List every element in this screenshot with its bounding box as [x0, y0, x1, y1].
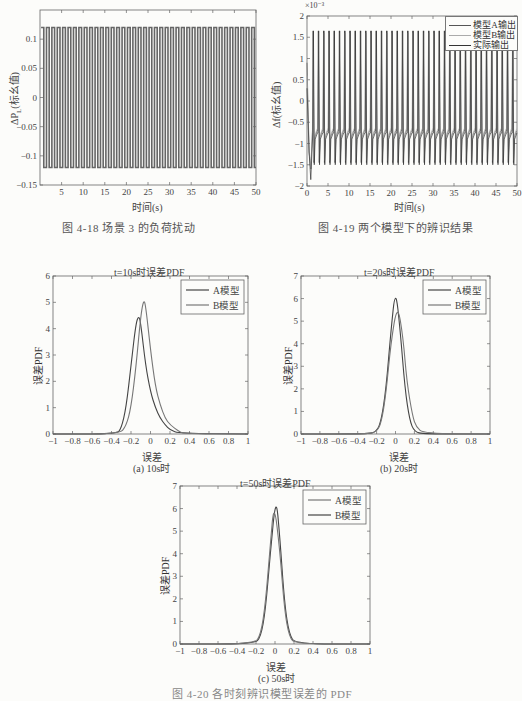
x-tick-label: 5 [59, 187, 64, 197]
fig-4-18-caption: 图 4-18 场景 3 的负荷扰动 [62, 219, 195, 235]
y-tick-label: 7 [173, 481, 178, 491]
y-tick-label: 2 [173, 594, 178, 604]
y-tick-label: 4 [46, 324, 51, 334]
output-series-1 [307, 33, 517, 169]
x-tick-label: 20 [387, 188, 397, 198]
legend-line-b [449, 35, 471, 36]
x-tick-label: 35 [450, 188, 460, 198]
fig-4-19-xlabel: 时间(s) [394, 199, 425, 214]
y-tick-label: −0.15 [16, 180, 37, 190]
x-tick-label: 20 [122, 187, 132, 197]
y-tick-label: 6 [173, 504, 178, 514]
fig-4-20-caption: 图 4-20 各时刻辨识模型误差的 PDF [172, 685, 352, 701]
x-tick-label: 5 [326, 188, 331, 198]
x-tick-label: 30 [165, 187, 175, 197]
x-tick-label: 40 [471, 188, 481, 198]
x-tick-label: −0.4 [103, 436, 120, 446]
y-tick-label: 4 [173, 549, 178, 559]
panel-a-ylabel: 误差PDF [30, 347, 45, 385]
ylabel-sub: L [15, 109, 23, 113]
output-series-0 [307, 31, 517, 169]
pdf-series-0 [53, 317, 248, 434]
output-series-2 [307, 31, 517, 180]
fig-4-19-caption: 图 4-19 两个模型下的辨识结果 [318, 219, 473, 235]
x-tick-label: 40 [208, 187, 218, 197]
legend-line-a [449, 25, 471, 26]
x-tick-label: −0.6 [210, 646, 227, 656]
panel-c-title: t=50s时误差PDF [240, 475, 311, 490]
y-tick-label: −0.5 [288, 117, 305, 127]
x-tick-label: −0.8 [312, 436, 329, 446]
x-tick-label: −0.2 [248, 646, 264, 656]
x-tick-label: −0.2 [123, 436, 139, 446]
x-tick-label: 1 [368, 646, 373, 656]
y-tick-label: 3 [173, 571, 178, 581]
legend-line-actual [449, 45, 471, 46]
x-tick-label: 0.6 [447, 436, 459, 446]
x-tick-label: 15 [100, 187, 110, 197]
legend-label: B模型 [213, 300, 239, 311]
y-tick-label: 1 [300, 54, 305, 64]
x-tick-label: −0.6 [331, 436, 348, 446]
legend-label: A模型 [335, 495, 362, 506]
x-tick-label: 0.4 [428, 436, 440, 446]
fig-4-19-ylabel: Δf(标幺值) [268, 82, 283, 128]
pdf-series-1 [53, 302, 248, 434]
x-tick-label: 0.8 [345, 646, 357, 656]
panel-a-title: t=10s时误差PDF [114, 264, 185, 279]
x-tick-label: −0.4 [350, 436, 367, 446]
y-tick-label: 3 [46, 350, 51, 360]
legend-label: B模型 [455, 300, 481, 311]
ylabel-suffix: (标幺值) [9, 72, 20, 109]
x-tick-label: 15 [366, 188, 376, 198]
fig-4-19-legend: 模型A输出 模型B输出 实际输出 [445, 16, 518, 51]
fig-4-18-xlabel: 时间(s) [132, 199, 163, 214]
ylabel-main: ΔP [9, 113, 20, 125]
panel-b-title: t=20s时误差PDF [364, 264, 435, 279]
x-tick-label: 0.2 [288, 646, 299, 656]
x-tick-label: 0 [393, 436, 398, 446]
x-tick-label: 0.4 [184, 436, 196, 446]
y-tick-label: 6 [294, 294, 299, 304]
y-tick-label: 0 [33, 93, 38, 103]
x-tick-label: 35 [187, 187, 197, 197]
y-tick-label: −2 [294, 181, 304, 191]
x-tick-label: 0.6 [326, 646, 338, 656]
panel-a-sublabel: (a) 10s时 [133, 460, 171, 475]
pdf-series-1 [180, 513, 370, 644]
x-tick-label: 0.2 [164, 436, 175, 446]
x-tick-label: 0.8 [465, 436, 477, 446]
y-tick-label: −1 [294, 139, 304, 149]
x-tick-label: 30 [429, 188, 439, 198]
x-tick-label: 10 [345, 188, 355, 198]
y-tick-label: 0.5 [293, 75, 305, 85]
x-tick-label: −0.4 [229, 646, 246, 656]
load-disturbance-plot: 5101520253035404550−0.15−0.1−0.0500.050.… [0, 0, 261, 205]
x-tick-label: −0.2 [368, 436, 384, 446]
load-disturbance-series [41, 28, 256, 168]
legend-item-actual: 实际输出 [449, 38, 509, 51]
x-tick-label: 45 [492, 188, 502, 198]
y-tick-label: 0.1 [26, 34, 37, 44]
x-tick-label: 1 [488, 436, 493, 446]
panel-b-ylabel: 误差PDF [280, 347, 295, 385]
y-tick-label: 5 [46, 297, 51, 307]
legend-label-actual: 实际输出 [473, 40, 509, 50]
x-tick-label: −0.8 [64, 436, 81, 446]
y-tick-label: 1 [294, 406, 299, 416]
x-tick-label: 25 [408, 188, 418, 198]
y-tick-label: −1.5 [288, 160, 305, 170]
y-tick-label: 1 [46, 403, 51, 413]
y-tick-label: 2 [300, 11, 305, 21]
fig-4-18-ylabel: ΔPL(标幺值) [6, 72, 23, 125]
y-tick-label: 7 [294, 271, 299, 281]
x-tick-label: 0.6 [203, 436, 215, 446]
y-tick-label: 0 [294, 429, 299, 439]
y-tick-label: 5 [173, 526, 178, 536]
x-tick-label: 0 [273, 646, 278, 656]
y-tick-label: 6 [46, 271, 51, 281]
x-tick-label: 50 [513, 188, 522, 198]
y-tick-label: 1 [173, 616, 178, 626]
y-tick-label: 2 [46, 376, 51, 386]
panel-b-sublabel: (b) 20s时 [380, 460, 418, 475]
